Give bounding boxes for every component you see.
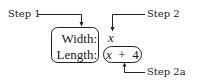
- length-label: Length:: [57, 48, 97, 61]
- width-value: x: [108, 31, 114, 44]
- width-label: Width:: [61, 32, 97, 45]
- step2-arrow: [113, 15, 146, 30]
- length-value: x + 4: [106, 48, 139, 61]
- step2a-arrow: [125, 65, 146, 73]
- step2-label: Step 2: [147, 9, 180, 19]
- step1-arrow: [38, 15, 82, 25]
- step1-label: Step 1: [8, 9, 41, 19]
- step-diagram: Step 1 Step 2 Step 2a Width: Length: x x…: [0, 0, 202, 82]
- step2a-label: Step 2a: [147, 67, 186, 77]
- step2a-arrowhead-icon: [123, 63, 127, 67]
- length-value-text: x + 4: [106, 47, 139, 62]
- step1-arrowhead-icon: [80, 22, 84, 27]
